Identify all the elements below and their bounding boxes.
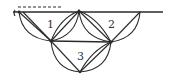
vertex-e (109, 40, 112, 43)
left-hook-mark (14, 10, 15, 16)
vertex-a (18, 11, 21, 14)
vertex-f (79, 71, 81, 73)
triangle-arc-diagram: 1 2 3 (0, 0, 170, 78)
region-label-1: 1 (47, 18, 54, 31)
vertex-d (49, 39, 52, 42)
region-label-2: 2 (108, 18, 115, 31)
vertex-b (78, 10, 81, 13)
region-label-3: 3 (77, 50, 84, 63)
middle-edge (51, 41, 111, 42)
